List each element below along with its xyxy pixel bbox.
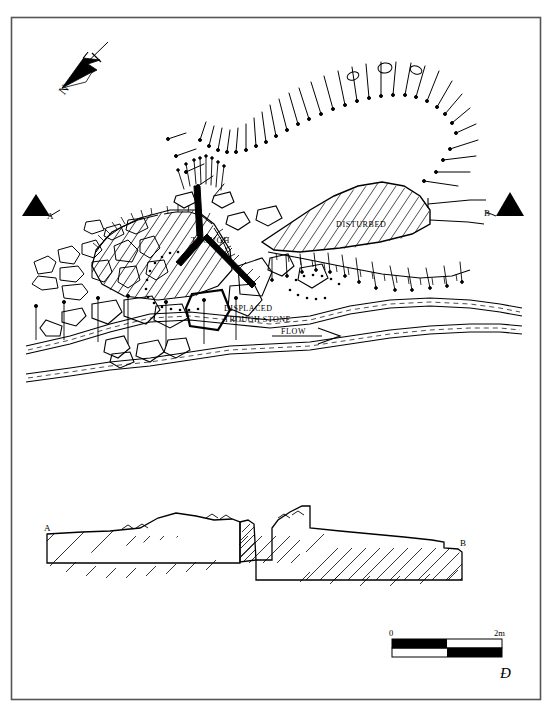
left-mound bbox=[60, 140, 300, 320]
trough-label: TROUGH bbox=[191, 235, 230, 245]
stream-channel-stones bbox=[104, 336, 190, 368]
displaced-trough-stone-label-line1: DISPLACED bbox=[224, 304, 273, 313]
stream-lower-bank bbox=[26, 324, 522, 382]
drawing-frame bbox=[12, 18, 541, 700]
section-marker-b: B bbox=[484, 192, 524, 218]
trough-structure: TROUGH bbox=[176, 186, 260, 288]
section-marker-a-label: A bbox=[47, 211, 54, 221]
slope-indicator-fan bbox=[167, 62, 479, 196]
scale-bar: 0 2m bbox=[389, 628, 505, 657]
site-plan-drawing: N A B bbox=[0, 0, 555, 722]
figure-canvas: N A B bbox=[0, 0, 555, 722]
disturbed-label: DISTURBED bbox=[336, 220, 386, 229]
section-marker-a: A bbox=[22, 194, 60, 221]
north-arrow: N bbox=[56, 42, 108, 97]
section-label-b: B bbox=[460, 538, 466, 548]
section-open-hatching bbox=[50, 558, 458, 586]
trough-head-hachures bbox=[177, 155, 226, 190]
section-marker-b-label: B bbox=[484, 208, 490, 218]
flow-label: FLOW bbox=[281, 327, 306, 336]
cross-section: A B bbox=[0, 480, 492, 628]
flow-indicator: FLOW bbox=[272, 327, 340, 344]
stone-cluster-left bbox=[32, 218, 168, 300]
scale-bar-start-label: 0 bbox=[389, 628, 393, 638]
stream-upper-bank bbox=[26, 298, 522, 354]
displaced-trough-stone: DISPLACED TROUGH STONE bbox=[186, 290, 291, 330]
scale-bar-end-label: 2m bbox=[494, 628, 505, 638]
mound-tail-lines bbox=[428, 198, 486, 224]
artist-monogram: Đ bbox=[499, 665, 511, 681]
disturbed-lower-hachures bbox=[268, 252, 470, 291]
section-label-a: A bbox=[44, 523, 51, 533]
